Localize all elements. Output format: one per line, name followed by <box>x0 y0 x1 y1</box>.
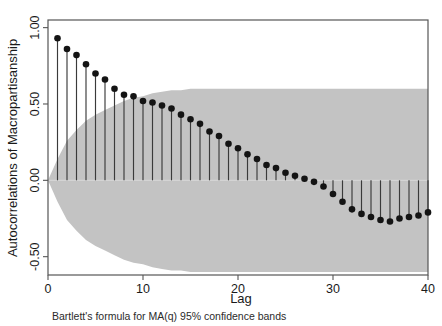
figure-caption: Bartlett's formula for MA(q) 95% confide… <box>52 310 286 322</box>
acf-point <box>263 162 270 169</box>
acf-point <box>406 214 413 221</box>
x-tick-label: 40 <box>421 282 435 296</box>
acf-point <box>320 183 327 190</box>
acf-point <box>178 111 185 118</box>
x-tick-label: 30 <box>326 282 340 296</box>
acf-point <box>197 121 204 128</box>
acf-point <box>358 211 365 218</box>
acf-point <box>73 52 80 59</box>
acf-point <box>396 215 403 222</box>
acf-plot-figure: -0.500.000.501.00 010203040 Autocorrelat… <box>0 0 442 326</box>
acf-point <box>54 35 61 42</box>
acf-point <box>387 218 394 225</box>
acf-point <box>415 212 422 219</box>
x-tick-label: 10 <box>136 282 150 296</box>
acf-point <box>368 214 375 221</box>
x-axis-title: Lag <box>230 291 252 306</box>
acf-point <box>206 128 213 135</box>
acf-point <box>102 76 109 83</box>
acf-point <box>349 206 356 213</box>
acf-point <box>282 169 289 176</box>
acf-point <box>187 116 194 123</box>
acf-point <box>425 209 432 216</box>
y-axis-title: Autocorrelations of Macropartisanship <box>5 39 20 257</box>
x-tick-label: 0 <box>45 282 52 296</box>
acf-point <box>254 156 261 163</box>
y-tick-label: 0.00 <box>28 168 42 192</box>
acf-point <box>273 165 280 172</box>
acf-point <box>149 99 156 106</box>
acf-point <box>225 140 232 147</box>
y-tick-label: 1.00 <box>28 15 42 39</box>
acf-point <box>111 85 118 92</box>
acf-point <box>301 176 308 183</box>
acf-point <box>159 102 166 109</box>
acf-point <box>244 151 251 158</box>
acf-point <box>377 217 384 224</box>
acf-point <box>140 98 147 105</box>
acf-point <box>64 46 71 53</box>
acf-point <box>292 172 299 179</box>
acf-plot-svg: -0.500.000.501.00 010203040 Autocorrelat… <box>0 0 442 326</box>
acf-point <box>330 191 337 198</box>
acf-point <box>83 61 90 68</box>
y-tick-label: -0.50 <box>28 242 42 271</box>
y-tick-label: 0.50 <box>28 92 42 116</box>
acf-point <box>235 145 242 152</box>
acf-point <box>92 70 99 77</box>
acf-point <box>121 92 128 99</box>
acf-point <box>216 133 223 140</box>
acf-point <box>339 198 346 205</box>
acf-point <box>130 93 137 100</box>
acf-point <box>311 179 318 186</box>
acf-point <box>168 105 175 112</box>
